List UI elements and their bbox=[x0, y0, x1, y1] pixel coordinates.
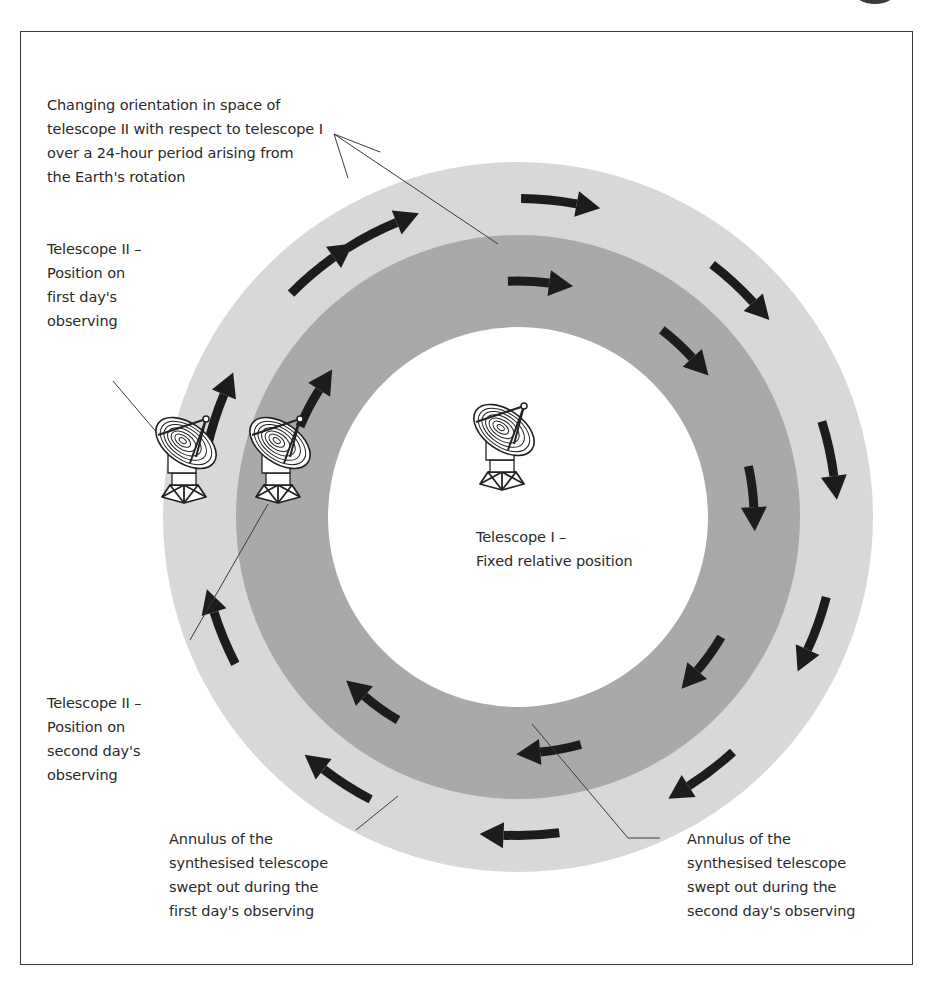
telescope2-day1-label: Telescope II – Position on first day's o… bbox=[47, 237, 141, 333]
rotation-arrow-shaft bbox=[508, 281, 549, 283]
annulus-day1-label: Annulus of the synthesised telescope swe… bbox=[169, 827, 328, 923]
telescope1-label: Telescope I – Fixed relative position bbox=[476, 525, 633, 573]
rotation-arrow-shaft bbox=[748, 466, 753, 507]
rotation-arrow-shaft bbox=[521, 199, 577, 204]
rotation-note-label: Changing orientation in space of telesco… bbox=[47, 93, 323, 189]
rotation-arrow-shaft bbox=[504, 833, 560, 836]
telescope2-day2-label: Telescope II – Position on second day's … bbox=[47, 691, 141, 787]
center-disc bbox=[328, 327, 708, 707]
leader-telescope2-day1 bbox=[113, 381, 158, 434]
annulus-day2-label: Annulus of the synthesised telescope swe… bbox=[687, 827, 855, 923]
